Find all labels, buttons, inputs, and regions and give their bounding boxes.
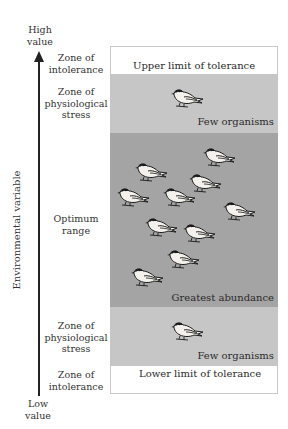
zone-label-line: Zone of	[44, 52, 108, 64]
bird-icon	[170, 319, 204, 341]
axis-high-line1: High	[22, 24, 58, 36]
zone-label-lower-stress: Zone of physiological stress	[42, 320, 110, 355]
few-organisms-text: Few organisms	[197, 116, 274, 127]
zone-upper-stress: Few organisms	[110, 74, 278, 133]
greatest-abundance-text: Greatest abundance	[172, 292, 274, 303]
zone-label-line: intolerance	[44, 381, 108, 393]
bird-icon	[170, 86, 204, 108]
zone-label-line: stress	[42, 343, 110, 355]
axis-low-label: Low value	[20, 398, 56, 421]
zone-label-line: physiological	[42, 332, 110, 344]
bird-icon	[162, 185, 196, 207]
zone-label-line: Zone of	[42, 320, 110, 332]
bird-icon	[144, 215, 178, 237]
zone-label-line: range	[44, 225, 108, 237]
bird-icon	[116, 185, 150, 207]
zone-lower-stress: Few organisms	[110, 307, 278, 366]
zone-label-line: Zone of	[42, 86, 110, 98]
axis-high-line2: value	[22, 36, 58, 48]
zone-label-line: physiological	[42, 98, 110, 110]
zone-label-upper-stress: Zone of physiological stress	[42, 86, 110, 121]
axis-low-line2: value	[20, 410, 56, 422]
zone-optimum: Greatest abundance	[110, 133, 278, 307]
few-organisms-text: Few organisms	[197, 350, 274, 361]
zone-label-lower-intolerance: Zone of intolerance	[44, 369, 108, 392]
upper-limit-text: Upper limit of tolerance	[133, 60, 255, 71]
zone-label-line: Optimum	[44, 213, 108, 225]
bird-icon	[202, 145, 236, 167]
axis-high-label: High value	[22, 24, 58, 47]
zone-label-line: Zone of	[44, 369, 108, 381]
zone-upper-intolerance: Upper limit of tolerance	[110, 46, 278, 74]
axis-low-line1: Low	[20, 398, 56, 410]
bird-icon	[166, 247, 200, 269]
zone-label-upper-intolerance: Zone of intolerance	[44, 52, 108, 75]
bird-icon	[222, 199, 256, 221]
bird-icon	[130, 265, 164, 287]
bird-icon	[182, 221, 216, 243]
axis-title: Environmental variable	[11, 170, 22, 289]
lower-limit-text: Lower limit of tolerance	[139, 368, 261, 379]
zone-label-line: stress	[42, 109, 110, 121]
zone-lower-intolerance: Lower limit of tolerance	[110, 366, 278, 394]
bird-icon	[134, 160, 168, 182]
zone-label-line: intolerance	[44, 64, 108, 76]
axis-line	[38, 60, 40, 396]
zone-label-optimum: Optimum range	[44, 213, 108, 236]
